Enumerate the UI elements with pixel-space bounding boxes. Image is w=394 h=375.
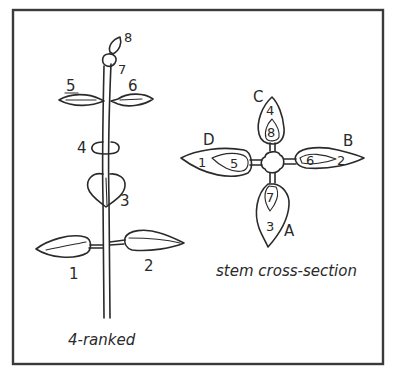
leaf-4 — [92, 142, 119, 154]
leaf-8 — [109, 37, 120, 54]
leaf-label-8: 8 — [124, 30, 132, 45]
rank-b-leaves — [284, 148, 364, 169]
leaf-label-4: 4 — [77, 139, 87, 157]
stem-center — [261, 152, 284, 173]
rank-d-leaves — [181, 148, 262, 176]
leaf-label-2: 2 — [144, 257, 154, 275]
side-view-caption: 4-ranked — [68, 331, 136, 349]
leaf-6 — [111, 94, 153, 106]
rank-label-a: A — [284, 222, 295, 240]
cs-leaf-label-2: 2 — [337, 153, 345, 168]
stem-right-edge — [109, 64, 111, 318]
cross-section-diagram: 4 8 C 1 5 D 6 2 B 7 3 A — [181, 88, 364, 280]
cs-leaf-label-5: 5 — [230, 156, 238, 171]
diagram-canvas: 8 7 5 6 4 3 — [0, 0, 394, 375]
leaf-5 — [59, 95, 104, 106]
figure-frame — [13, 10, 383, 364]
leaf-2 — [110, 230, 184, 250]
stem-left-edge — [103, 66, 104, 318]
cross-section-caption: stem cross-section — [216, 262, 357, 280]
cs-leaf-label-8: 8 — [267, 125, 275, 140]
cs-leaf-label-7: 7 — [266, 190, 274, 205]
rank-label-d: D — [203, 131, 215, 149]
leaf-label-7: 7 — [118, 62, 126, 77]
cs-leaf-label-4: 4 — [266, 103, 274, 118]
cs-leaf-label-3: 3 — [266, 219, 274, 234]
rank-label-c: C — [253, 88, 263, 106]
side-view-plant: 8 7 5 6 4 3 — [36, 30, 184, 349]
cs-leaf-label-1: 1 — [198, 155, 206, 170]
leaf-label-5: 5 — [66, 77, 76, 95]
leaf-label-3: 3 — [120, 192, 130, 210]
rank-label-b: B — [343, 132, 353, 150]
cs-leaf-label-6: 6 — [306, 153, 314, 168]
leaf-1 — [36, 236, 103, 257]
leaf-label-1: 1 — [69, 265, 79, 283]
leaf-label-6: 6 — [128, 77, 138, 95]
leaf-7 — [103, 54, 116, 67]
leaf-arrangement-figure: 8 7 5 6 4 3 — [0, 0, 394, 375]
